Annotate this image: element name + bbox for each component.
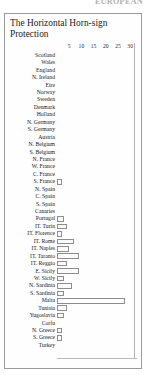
plot-area: 51015202530 ScotlandWalesEnglandN. Irela…	[5, 43, 141, 359]
bar	[57, 231, 62, 237]
bar	[57, 305, 67, 311]
bar	[57, 335, 62, 341]
bar-track	[57, 186, 141, 193]
category-label: IT. Reggio	[5, 260, 57, 267]
bar-track	[57, 126, 141, 133]
bar	[57, 276, 64, 282]
bar-track	[57, 208, 141, 215]
running-head-strip: EUROPEAN	[0, 0, 147, 12]
bar-track	[57, 253, 141, 260]
category-label: N. France	[5, 156, 57, 163]
bar-track	[57, 290, 141, 297]
category-label: IT. Taranto	[5, 253, 57, 260]
bar	[57, 298, 125, 304]
bar-row: S. Sardinia	[5, 290, 141, 297]
bar-track	[57, 327, 141, 334]
category-label: Malta	[5, 297, 57, 304]
bar-rows: ScotlandWalesEnglandN. IrelandEireNorway…	[5, 52, 141, 359]
bar-row: N. France	[5, 156, 141, 163]
category-label: S. Spain	[5, 201, 57, 208]
category-label: Eire	[5, 82, 57, 89]
bar	[57, 179, 62, 185]
bar-row: Turkey	[5, 342, 141, 349]
bar-track	[57, 178, 141, 185]
bar-track	[57, 230, 141, 237]
category-label: N. Greece	[5, 327, 57, 334]
bar-track	[57, 215, 141, 222]
x-tick-25: 25	[115, 43, 121, 49]
bar-track	[57, 59, 141, 66]
bar-row: S. Germany	[5, 126, 141, 133]
bar-track	[57, 82, 141, 89]
category-label: N. Belgium	[5, 141, 57, 148]
category-label: Denmark	[5, 104, 57, 111]
bar-row: C. Spain	[5, 193, 141, 200]
category-label: C. Spain	[5, 193, 57, 200]
bar-row: N. Sardinia	[5, 282, 141, 289]
category-label: Wales	[5, 59, 57, 66]
category-label: N. Ireland	[5, 74, 57, 81]
bar-track	[57, 89, 141, 96]
category-label: W. France	[5, 163, 57, 170]
bar	[57, 283, 72, 289]
bar-track	[57, 282, 141, 289]
bar-track	[57, 96, 141, 103]
figure-panel: The Horizontal Horn-sign Protection 5101…	[4, 13, 142, 369]
bar-track	[57, 268, 141, 275]
bar-row: IT. Florence	[5, 230, 141, 237]
bar-row: Portugal	[5, 215, 141, 222]
category-label: Holland	[5, 111, 57, 118]
bar	[57, 216, 64, 222]
running-head: EUROPEAN	[95, 0, 143, 6]
bar-track	[57, 156, 141, 163]
bar-track	[57, 275, 141, 282]
bar-track	[57, 201, 141, 208]
category-label: Sweden	[5, 96, 57, 103]
bar-row: W. France	[5, 163, 141, 170]
bar-track	[57, 320, 141, 327]
category-label: Canaries	[5, 208, 57, 215]
bar-track	[57, 111, 141, 118]
bar-track	[57, 74, 141, 81]
bar-row: Canaries	[5, 208, 141, 215]
bar	[57, 261, 67, 267]
bar-row: Corfu	[5, 320, 141, 327]
bar	[57, 246, 69, 252]
bar-row: IT. Taranto	[5, 253, 141, 260]
category-label: Yugoslavia	[5, 312, 57, 319]
category-label: Portugal	[5, 215, 57, 222]
bar-row: N. Germany	[5, 119, 141, 126]
category-label: E. Sicily	[5, 268, 57, 275]
bar-row: Tunisia	[5, 305, 141, 312]
category-label: S. Greece	[5, 334, 57, 341]
bar-row: S. Spain	[5, 201, 141, 208]
bar-row: Austria	[5, 134, 141, 141]
x-tick-10: 10	[79, 43, 85, 49]
category-label: N. Spain	[5, 186, 57, 193]
category-label: Norway	[5, 89, 57, 96]
bar-track	[57, 52, 141, 59]
category-label: S. Belgium	[5, 149, 57, 156]
bar	[57, 328, 62, 334]
bar-row: W. Sicily	[5, 275, 141, 282]
x-tick-20: 20	[103, 43, 109, 49]
category-label: N. Sardinia	[5, 282, 57, 289]
category-label: England	[5, 67, 57, 74]
bar-row: S. France	[5, 178, 141, 185]
bar	[57, 313, 64, 319]
bar-row: Denmark	[5, 104, 141, 111]
category-label: S. France	[5, 178, 57, 185]
bar-track	[57, 193, 141, 200]
category-label: IT. Turin	[5, 223, 57, 230]
bar-track	[57, 141, 141, 148]
category-label: N. Germany	[5, 119, 57, 126]
category-label: C. France	[5, 171, 57, 178]
bar-row: Yugoslavia	[5, 312, 141, 319]
category-label: Turkey	[5, 342, 57, 349]
bar-row: Malta	[5, 297, 141, 304]
bar-row: Scotland	[5, 52, 141, 59]
category-label: Austria	[5, 134, 57, 141]
bar-track	[57, 297, 141, 304]
category-label: IT. Florence	[5, 230, 57, 237]
category-label: IT. Rome	[5, 238, 57, 245]
